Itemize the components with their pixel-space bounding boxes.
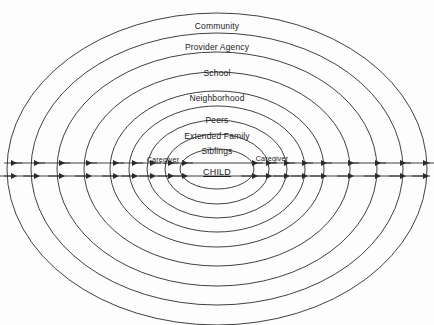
ring-label-peers: Peers	[206, 115, 229, 125]
ring-label-school: School	[204, 68, 231, 78]
ring-label-provider-agency: Provider Agency	[185, 42, 249, 52]
ring-label-child: CHILD	[203, 167, 231, 177]
ring-label-extended-family: Extended Family	[184, 131, 250, 141]
ecological-systems-diagram: CommunityProvider AgencySchoolNeighborho…	[0, 0, 434, 325]
ring-label-siblings: Siblings	[202, 146, 233, 156]
ring-label-caregiver-right: Caregiver	[256, 154, 289, 163]
ring-label-caregiver-left: Caregiver	[147, 155, 180, 164]
ring-label-community: Community	[195, 21, 239, 31]
ring-label-neighborhood: Neighborhood	[189, 93, 244, 103]
